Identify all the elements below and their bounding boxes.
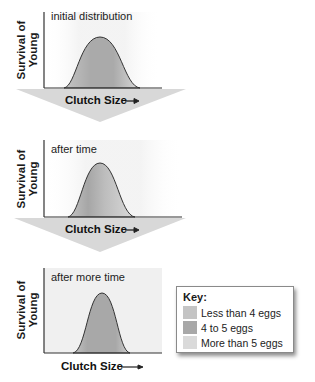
legend-swatch <box>183 336 197 349</box>
panel-title-2: after time <box>51 143 97 155</box>
panel-title-1: initial distribution <box>51 10 132 22</box>
legend-item-less-than-4: Less than 4 eggs <box>183 305 287 320</box>
x-axis-label-1: Clutch Size <box>65 94 127 106</box>
panel-initial-distribution <box>44 12 162 88</box>
legend-item-4-to-5: 4 to 5 eggs <box>183 320 287 335</box>
y-axis-label-1: Survival ofYoung <box>15 15 39 85</box>
legend-title: Key: <box>183 291 287 303</box>
legend-swatch <box>183 321 197 334</box>
legend-key: Key: Less than 4 eggs 4 to 5 eggs More t… <box>176 286 294 353</box>
x-axis-label-3: Clutch Size <box>61 360 123 372</box>
x-axis-label-2: Clutch Size <box>65 223 127 235</box>
legend-label: Less than 4 eggs <box>201 307 281 319</box>
y-axis-label-2: Survival ofYoung <box>15 144 39 214</box>
panel-title-3: after more time <box>51 271 125 283</box>
legend-swatch <box>183 306 197 319</box>
legend-label: More than 5 eggs <box>201 337 283 349</box>
y-axis-label-3: Survival ofYoung <box>15 275 39 345</box>
legend-item-more-than-5: More than 5 eggs <box>183 335 287 350</box>
legend-label: 4 to 5 eggs <box>201 322 253 334</box>
